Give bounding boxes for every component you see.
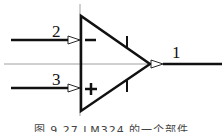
- pin-label-1: 1: [172, 43, 181, 62]
- input-2-arrow-icon: [68, 36, 80, 44]
- figure-caption: 图 9.27 LM324 的一个部件: [0, 121, 223, 132]
- op-amp-triangle: [81, 16, 150, 111]
- pin-label-2: 2: [52, 22, 61, 41]
- op-amp-diagram: 2 3 1: [0, 0, 223, 132]
- input-3-arrow-icon: [68, 84, 80, 92]
- output-arrow-icon: [151, 60, 163, 68]
- pin-label-3: 3: [52, 70, 61, 89]
